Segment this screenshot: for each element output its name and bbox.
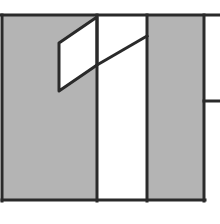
- geometric-diagram: [0, 0, 220, 224]
- right-gray-panel: [147, 16, 204, 200]
- fill-regions: [3, 16, 204, 200]
- center-white-column: [97, 16, 147, 200]
